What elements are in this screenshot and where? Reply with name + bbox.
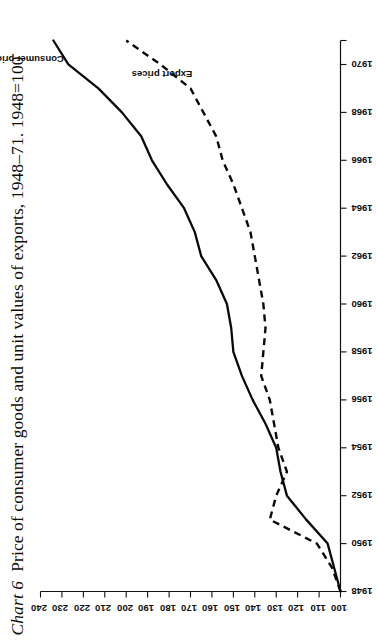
year-axis-tick-1950: 1950 <box>347 538 377 549</box>
series-line-export-prices <box>126 40 340 591</box>
series-label-consumer-prices: Consumer prices <box>0 54 69 65</box>
chart-svg <box>40 21 340 591</box>
year-axis-tick-1968: 1968 <box>347 106 377 117</box>
year-axis-tick-1958: 1958 <box>347 346 377 357</box>
year-axis-tick-1966: 1966 <box>347 154 377 165</box>
chart-title-text: Price of consumer goods and unit values … <box>6 56 26 571</box>
year-axis-tick-1964: 1964 <box>347 202 377 213</box>
plot-area <box>40 21 340 591</box>
value-axis-tick-100: 100 <box>324 603 354 614</box>
page-title: Chart 6Price of consumer goods and unit … <box>6 56 27 635</box>
series-label-export-prices: Export prices <box>122 69 202 80</box>
year-axis-tick-1962: 1962 <box>347 250 377 261</box>
year-axis-tick-1956: 1956 <box>347 394 377 405</box>
year-axis-tick-1954: 1954 <box>347 442 377 453</box>
series-line-consumer-prices <box>53 40 340 591</box>
year-axis-tick-1960: 1960 <box>347 298 377 309</box>
chart-number: Chart 6 <box>6 580 26 635</box>
year-axis-tick-1952: 1952 <box>347 490 377 501</box>
year-axis-tick-1948: 1948 <box>347 586 377 597</box>
year-axis-tick-1970: 1970 <box>347 58 377 69</box>
